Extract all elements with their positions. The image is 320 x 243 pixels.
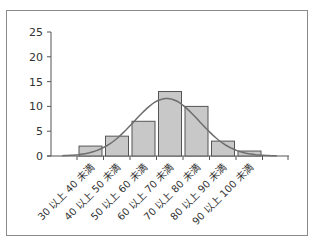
y-tick-label: 10: [29, 100, 43, 113]
histogram-bar: [132, 121, 155, 156]
y-tick-label: 15: [29, 76, 43, 89]
y-tick-label: 25: [29, 26, 43, 39]
y-tick-label: 20: [29, 51, 43, 64]
histogram-chart: 051015202530 以上 40 未満40 以上 50 未満50 以上 60…: [0, 0, 320, 243]
histogram-bar: [185, 106, 208, 156]
y-tick-label: 5: [36, 125, 43, 138]
y-tick-label: 0: [36, 150, 43, 163]
